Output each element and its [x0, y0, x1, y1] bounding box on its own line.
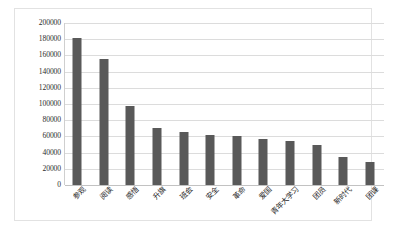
- bar[interactable]: [73, 38, 82, 185]
- bar-series: [64, 23, 384, 185]
- x-axis-tick-label: 爱国: [258, 186, 274, 202]
- bar-chart-figure: 2000001800001600001400001200001000008000…: [0, 0, 418, 243]
- y-axis-tick-label: 120000: [15, 84, 61, 92]
- bar-slot: [197, 23, 224, 185]
- bar[interactable]: [312, 145, 321, 186]
- x-axis-tick-label: 参观: [72, 186, 88, 202]
- y-axis-tick-label: 200000: [15, 19, 61, 27]
- x-axis-tick-label: 新时代: [333, 186, 354, 207]
- bar-slot: [356, 23, 383, 185]
- x-axis-tick-label: 安全: [205, 186, 221, 202]
- chart-frame: 2000001800001600001400001200001000008000…: [14, 8, 372, 221]
- y-axis-tick-label: 140000: [15, 68, 61, 76]
- y-axis-tick-label: 160000: [15, 51, 61, 59]
- y-axis-tick-label: 40000: [15, 149, 61, 157]
- bar-slot: [64, 23, 91, 185]
- x-axis-tick-label: 阅读: [99, 186, 115, 202]
- x-axis-tick-label: 团员: [312, 186, 328, 202]
- bar[interactable]: [285, 141, 294, 185]
- bar[interactable]: [259, 139, 268, 185]
- y-axis-tick-label: 100000: [15, 100, 61, 108]
- y-axis-tick-label: 80000: [15, 116, 61, 124]
- bar[interactable]: [339, 157, 348, 185]
- x-axis-tick-label: 团课: [365, 186, 381, 202]
- bar[interactable]: [232, 136, 241, 185]
- bar-slot: [117, 23, 144, 185]
- bar-slot: [303, 23, 330, 185]
- x-axis-category-labels: 参观阅读感悟升旗班会安全革命爱国青年大学习团员新时代团课: [64, 186, 384, 230]
- bar-slot: [224, 23, 251, 185]
- bar-slot: [91, 23, 118, 185]
- bar-slot: [170, 23, 197, 185]
- bar[interactable]: [206, 135, 215, 185]
- x-axis-tick-label: 感悟: [126, 186, 142, 202]
- y-axis-tick-label: 180000: [15, 35, 61, 43]
- bar-slot: [277, 23, 304, 185]
- bar[interactable]: [126, 106, 135, 185]
- bar-slot: [250, 23, 277, 185]
- bar-slot: [330, 23, 357, 185]
- x-axis-tick-label: 青年大学习: [270, 186, 301, 217]
- x-axis-tick-label: 升旗: [152, 186, 168, 202]
- bar[interactable]: [99, 59, 108, 185]
- bar[interactable]: [365, 162, 374, 185]
- y-axis-tick-label: 0: [15, 181, 61, 189]
- y-axis-tick-labels: 2000001800001600001400001200001000008000…: [15, 23, 61, 185]
- x-axis-tick-label: 革命: [232, 186, 248, 202]
- y-axis-tick-label: 60000: [15, 132, 61, 140]
- bar[interactable]: [179, 132, 188, 185]
- y-axis-tick-label: 20000: [15, 165, 61, 173]
- x-axis-tick-label: 班会: [179, 186, 195, 202]
- bar-slot: [144, 23, 171, 185]
- bar[interactable]: [153, 128, 162, 185]
